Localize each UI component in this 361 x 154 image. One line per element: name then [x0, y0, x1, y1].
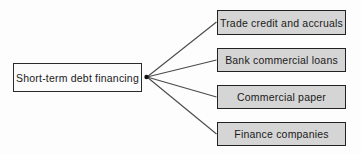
child-node-commercial-paper: Commercial paper [217, 85, 346, 109]
child-node-label: Bank commercial loans [225, 54, 338, 66]
junction-dot [144, 75, 148, 79]
child-node-label: Commercial paper [237, 91, 326, 103]
connector-line-commercial-paper [147, 77, 217, 97]
child-node-finance-companies: Finance companies [217, 122, 346, 146]
child-node-label: Trade credit and accruals [220, 17, 343, 29]
connector-line-finance-companies [147, 77, 217, 134]
child-node-trade-credit-and-accruals: Trade credit and accruals [217, 10, 346, 35]
child-node-label: Finance companies [234, 128, 328, 140]
root-node-label: Short-term debt financing [16, 72, 139, 84]
child-node-bank-commercial-loans: Bank commercial loans [217, 48, 346, 72]
root-node-short-term-debt-financing: Short-term debt financing [13, 63, 142, 92]
debt-financing-diagram: Short-term debt financing Trade credit a… [0, 0, 361, 154]
